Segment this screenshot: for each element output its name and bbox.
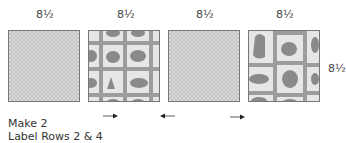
- arrow-left-icon: [159, 113, 175, 119]
- fabric-block-solid-1: [8, 30, 80, 102]
- dimension-label-block-2: 8½: [117, 8, 135, 21]
- dimension-label-block-3: 8½: [196, 8, 214, 21]
- arrow-right-icon: [230, 114, 246, 120]
- fabric-block-solid-2: [168, 30, 240, 102]
- animal-print-pattern: [89, 31, 160, 102]
- dimension-label-side: 8½: [328, 62, 346, 75]
- animal-print-pattern: [249, 31, 320, 102]
- dimension-label-block-4: 8½: [276, 8, 294, 21]
- dimension-label-block-1: 8½: [36, 8, 54, 21]
- fabric-block-print-2: [248, 30, 320, 102]
- instruction-quantity: Make 2: [8, 117, 47, 130]
- arrow-right-icon: [103, 113, 119, 119]
- fabric-block-print-1: [88, 30, 160, 102]
- instruction-row-label: Label Rows 2 & 4: [8, 130, 103, 143]
